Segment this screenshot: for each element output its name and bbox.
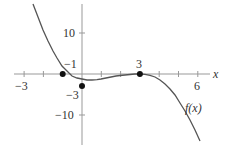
function-graph: −3 6 10 −10 −1 −3 3 x f(x) (0, 0, 227, 149)
point-y-intercept (79, 83, 85, 89)
tick-label-neg3: −3 (15, 79, 28, 93)
point-x-intercept-neg1 (60, 71, 66, 77)
point-label-neg3: −3 (66, 88, 79, 102)
tick-label-6: 6 (194, 79, 200, 93)
point-x-intercept-3 (137, 71, 143, 77)
function-label: f(x) (185, 101, 202, 115)
point-label-neg1: −1 (64, 57, 77, 71)
x-axis-label: x (212, 67, 219, 81)
tick-label-neg10: −10 (55, 108, 74, 122)
point-label-3: 3 (136, 57, 142, 71)
tick-label-10: 10 (63, 26, 75, 40)
